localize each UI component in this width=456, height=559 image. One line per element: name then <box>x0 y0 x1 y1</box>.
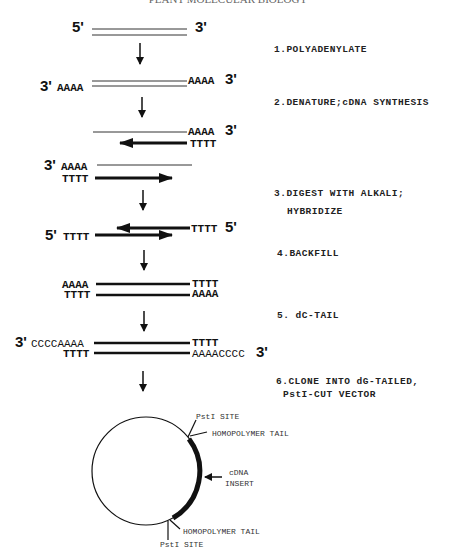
svg-text:AAAACCCC: AAAACCCC <box>192 348 245 360</box>
five-prime-label: 5' <box>72 18 84 35</box>
cdna-cloning-diagram: PLANT MOLECULAR BIOLOGY 5' 3' 1.POLYADEN… <box>0 0 456 559</box>
stage-hybridize: TTTT 5' 5' TTTT <box>45 218 237 243</box>
stage-dc-tailed: 3' CCCCAAAA TTTT TTTT AAAACCCC 3' <box>15 333 268 360</box>
svg-text:TTTT: TTTT <box>63 231 90 243</box>
svg-text:AAAA: AAAA <box>188 126 215 138</box>
svg-text:3': 3' <box>256 343 268 360</box>
figure-title: PLANT MOLECULAR BIOLOGY <box>149 0 308 5</box>
svg-text:5': 5' <box>225 218 237 235</box>
svg-text:3': 3' <box>15 333 27 350</box>
svg-text:3': 3' <box>40 77 52 94</box>
svg-text:TTTT: TTTT <box>62 173 89 185</box>
svg-text:cDNA: cDNA <box>229 468 248 477</box>
pstI-site-bottom-label: PstI SITE <box>160 540 203 549</box>
step-6-label-line1: 6.CLONE INTO dG-TAILED, <box>276 376 419 387</box>
svg-text:TTTT: TTTT <box>190 138 217 150</box>
homopolymer-tail-bottom-label: HOMOPOLYMER TAIL <box>183 527 260 536</box>
plasmid-vector: PstI SITE HOMOPOLYMER TAIL cDNA INSERT H… <box>92 412 289 549</box>
svg-text:3': 3' <box>225 121 237 138</box>
stage-backfill: AAAA TTTT TTTT AAAA <box>62 278 219 301</box>
homopolymer-tail-top-label: HOMOPOLYMER TAIL <box>212 429 289 438</box>
cdna-insert-arc <box>173 439 200 518</box>
stage-mrna: 5' 3' <box>72 18 207 35</box>
svg-text:TTTT: TTTT <box>191 223 218 235</box>
stage-digest: 3' AAAA TTTT <box>44 156 192 185</box>
stage-cdna-synthesis: AAAA 3' TTTT <box>93 121 237 150</box>
step-5-label: 5. dC-TAIL <box>277 310 339 321</box>
step-3-label-line1: 3.DIGEST WITH ALKALI; <box>274 188 404 199</box>
svg-text:AAAA: AAAA <box>192 288 219 300</box>
step-3-label-line2: HYBRIDIZE <box>287 206 343 217</box>
step-6-label-line2: PstI-CUT VECTOR <box>283 389 376 400</box>
step-2-label: 2.DENATURE;cDNA SYNTHESIS <box>274 97 429 108</box>
svg-text:AAAA: AAAA <box>57 82 84 94</box>
svg-text:3': 3' <box>44 156 56 173</box>
step-1-label: 1.POLYADENYLATE <box>274 44 367 55</box>
svg-text:TTTT: TTTT <box>63 348 90 360</box>
svg-text:AAAA: AAAA <box>61 161 88 173</box>
step-4-label: 4.BACKFILL <box>277 248 339 259</box>
svg-text:5': 5' <box>45 226 57 243</box>
svg-text:INSERT: INSERT <box>225 479 254 488</box>
svg-text:AAAA: AAAA <box>188 75 215 87</box>
stage-polyadenylated: 3' AAAA AAAA 3' <box>40 70 237 94</box>
pstI-site-top-label: PstI SITE <box>196 412 239 421</box>
three-prime-label: 3' <box>195 18 207 35</box>
svg-text:3': 3' <box>225 70 237 87</box>
svg-text:TTTT: TTTT <box>64 289 91 301</box>
